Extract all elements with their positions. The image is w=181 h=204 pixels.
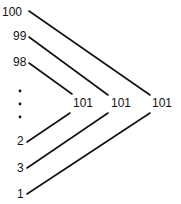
sum-label-outer: 101 (152, 96, 172, 110)
label-2: 2 (17, 134, 24, 148)
left-number-labels: 100 99 98 2 3 1 (2, 5, 27, 201)
ellipsis-dot-1 (19, 90, 22, 93)
sum-label-middle: 101 (111, 96, 131, 110)
label-1: 1 (17, 187, 24, 201)
connector-line-1-to-s3 (27, 113, 150, 194)
label-99: 99 (13, 29, 27, 43)
connector-line-98-to-s1 (29, 63, 72, 94)
label-100: 100 (2, 5, 22, 19)
connector-line-99-to-s2 (29, 37, 108, 95)
connector-line-2-to-s1 (27, 113, 70, 142)
label-98: 98 (13, 55, 27, 69)
label-3: 3 (17, 161, 24, 175)
sum-label-inner: 101 (73, 96, 93, 110)
pairing-diagram: 100 99 98 2 3 1 101 101 101 (0, 0, 181, 204)
sum-labels: 101 101 101 (73, 96, 172, 110)
ellipsis-dots (19, 90, 22, 119)
connector-line-3-to-s2 (27, 113, 108, 168)
ellipsis-dot-3 (19, 116, 22, 119)
ellipsis-dot-2 (19, 103, 22, 106)
